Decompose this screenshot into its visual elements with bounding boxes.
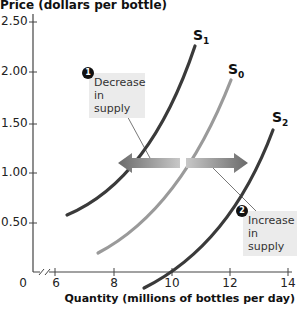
chart-plot (0, 0, 297, 310)
x-tick-label: 14 (280, 276, 295, 290)
x-tick-label: 6 (52, 276, 60, 290)
x-tick-label: 10 (164, 276, 179, 290)
curve-label-s0: S0 (228, 61, 244, 80)
callout-text: in supply (94, 89, 140, 115)
y-tick-label: 0.50 (1, 215, 27, 229)
axis-break-icon (39, 268, 50, 276)
step-1-badge: 1 (82, 67, 94, 79)
x-tick-label: 8 (110, 276, 118, 290)
curve-label-s1: S1 (193, 27, 209, 46)
callout-decrease-in-supply: Decrease in supply (89, 73, 145, 118)
callout-text: Decrease (94, 76, 140, 89)
shift-arrow (118, 153, 248, 173)
x-tick-label: 12 (222, 276, 237, 290)
y-tick-label: 2.50 (1, 14, 27, 28)
y-tick-label: 2.00 (1, 64, 27, 78)
x-axis-title: Quantity (millions of bottles per day) (64, 292, 295, 305)
callout1-leader (125, 112, 150, 158)
curve-label-s2: S2 (272, 109, 288, 128)
callout-increase-in-supply: Increase in supply (243, 211, 297, 256)
step-2-badge: 2 (236, 205, 248, 217)
y-tick-label: 1.00 (1, 165, 27, 179)
callout-text: Increase (248, 214, 294, 227)
callout-text: in supply (248, 227, 294, 253)
x-tick-label: 0 (19, 276, 27, 290)
y-tick-label: 1.50 (1, 116, 27, 130)
